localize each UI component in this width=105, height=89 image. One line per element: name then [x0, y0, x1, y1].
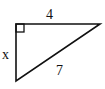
right-angle-marker	[16, 24, 24, 32]
top-side-label: 4	[46, 7, 53, 22]
hypotenuse-label: 7	[56, 63, 63, 78]
left-side-label: x	[2, 47, 9, 62]
right-triangle-diagram: 4 x 7	[0, 0, 105, 89]
